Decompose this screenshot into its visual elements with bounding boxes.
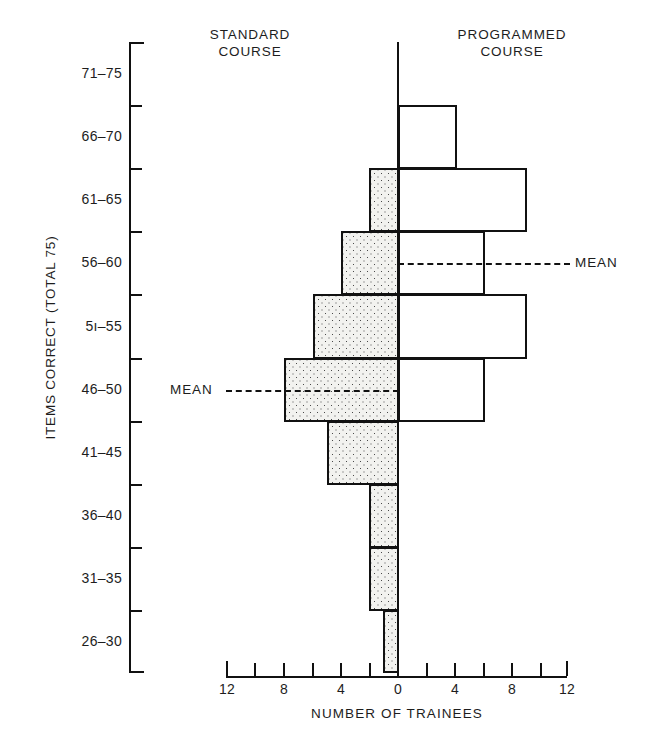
bar-programmed-61-65 <box>398 168 527 232</box>
x-tick-left-6 <box>312 663 314 676</box>
bar-standard-41-45 <box>327 421 399 485</box>
y-tick-boundary-60 <box>129 294 142 296</box>
y-tick-boundary-50 <box>129 421 142 423</box>
y-tick-boundary-75 <box>129 105 142 107</box>
x-tick-right-12 <box>566 661 568 676</box>
y-tick-boundary-70 <box>129 168 142 170</box>
x-tick-left-4 <box>340 663 342 676</box>
mean-line-programmed <box>398 263 570 265</box>
bar-standard-61-65 <box>369 168 399 232</box>
bar-standard-36-40 <box>369 484 399 548</box>
y-axis-label-66-70: 66–70 <box>46 128 122 144</box>
y-axis-label-26-30: 26–30 <box>46 633 122 649</box>
mean-label-standard: MEAN <box>170 382 213 397</box>
y-tick-boundary-65 <box>129 231 142 233</box>
x-axis-label-left-12: 12 <box>207 681 247 697</box>
mean-line-standard <box>226 390 399 392</box>
x-axis-label-right-8: 8 <box>492 681 532 697</box>
bar-programmed-66-70 <box>398 105 457 169</box>
x-tick-right-2 <box>426 663 428 676</box>
x-tick-left-2 <box>369 663 371 676</box>
x-axis-label-right-4: 4 <box>435 681 475 697</box>
x-tick-right-10 <box>540 663 542 676</box>
series-title-programmed-course: PROGRAMMED COURSE <box>432 26 592 60</box>
x-axis-label-left-4: 4 <box>321 681 361 697</box>
bar-standard-56-60 <box>341 231 399 295</box>
y-axis-label-46-50: 46–50 <box>46 381 122 397</box>
y-axis-label-51-55: 5ı–55 <box>46 318 122 334</box>
bar-programmed-51-55 <box>398 294 527 359</box>
bilateral-histogram-figure: STANDARD COURSE PROGRAMMED COURSE ITEMS … <box>0 0 655 750</box>
y-tick-boundary-35 <box>129 610 142 612</box>
x-axis-label-right-12: 12 <box>547 681 587 697</box>
x-axis-title: NUMBER OF TRAINEES <box>227 706 567 721</box>
x-tick-right-4 <box>454 663 456 676</box>
bar-standard-31-35 <box>369 547 399 611</box>
x-axis-label-zero: 0 <box>378 681 418 697</box>
x-axis-line <box>226 676 567 678</box>
x-tick-left-10 <box>254 663 256 676</box>
x-tick-right-8 <box>511 663 513 676</box>
y-tick-boundary-55 <box>129 358 142 360</box>
y-tick-boundary-40 <box>129 547 142 549</box>
y-axis-label-61-65: 61–65 <box>46 191 122 207</box>
mean-label-programmed: MEAN <box>575 255 618 270</box>
x-tick-zero <box>397 663 399 676</box>
y-axis-label-56-60: 56–60 <box>46 254 122 270</box>
x-tick-left-12 <box>226 661 228 676</box>
series-title-standard-course: STANDARD COURSE <box>180 26 320 60</box>
y-axis-title: ITEMS CORRECT (TOTAL 75) <box>43 208 58 468</box>
y-axis-label-71-75: 71–75 <box>46 65 122 81</box>
y-tick-boundary-top <box>129 42 144 44</box>
bar-standard-51-55 <box>313 294 399 359</box>
x-tick-right-6 <box>483 663 485 676</box>
y-tick-boundary-45 <box>129 484 142 486</box>
x-axis-label-left-8: 8 <box>264 681 304 697</box>
y-axis-label-41-45: 41–45 <box>46 444 122 460</box>
y-axis-label-31-35: 31–35 <box>46 570 122 586</box>
x-tick-left-8 <box>283 663 285 676</box>
y-axis-label-36-40: 36–40 <box>46 507 122 523</box>
y-tick-boundary-bottom <box>129 671 144 673</box>
bar-programmed-46-50 <box>398 358 485 422</box>
